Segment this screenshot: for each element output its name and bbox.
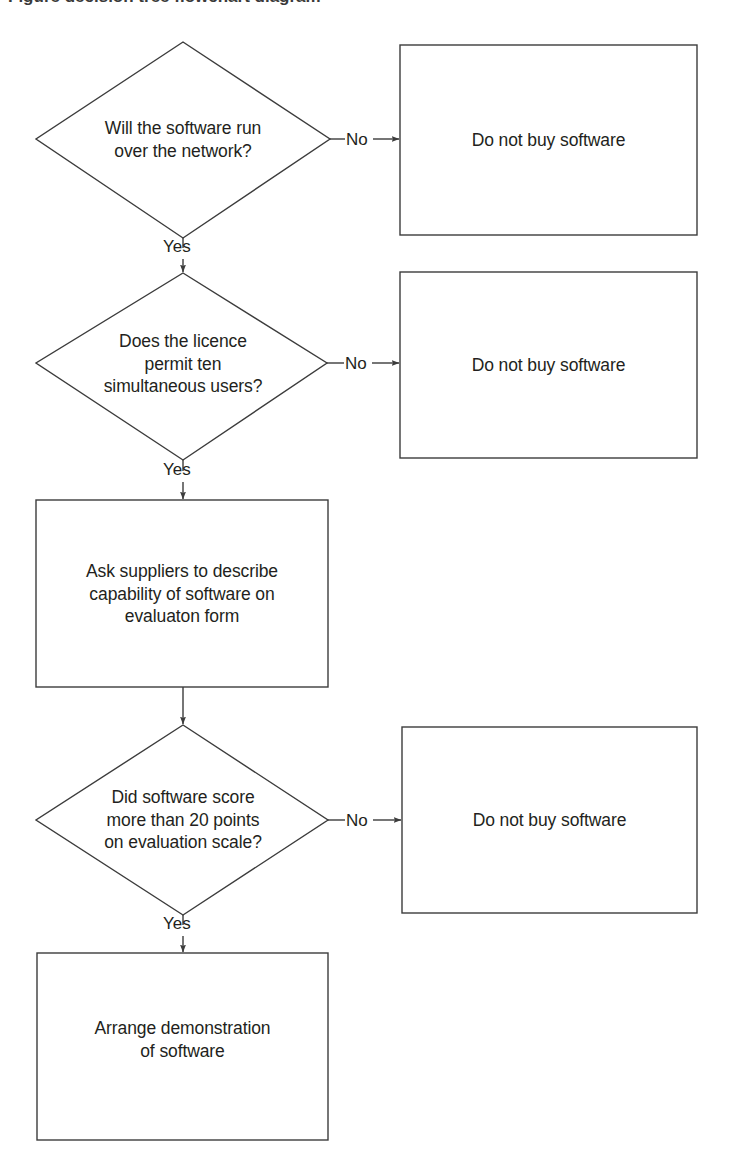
- flowchart-shapes-and-connectors: [0, 0, 734, 1171]
- edge-label-d1-no: No: [346, 131, 368, 148]
- flowchart-canvas: Figure decision tree flowchart diagram: [0, 0, 734, 1171]
- edge-label-d2-no: No: [345, 355, 367, 372]
- outcome3-rect-shape: [402, 727, 697, 913]
- process2-rect-shape: [37, 953, 328, 1140]
- process1-rect-shape: [36, 500, 328, 687]
- outcome1-rect-shape: [400, 45, 697, 235]
- outcome2-rect-shape: [400, 272, 697, 458]
- edge-label-d3-no: No: [346, 812, 368, 829]
- decision2-diamond-shape: [36, 273, 327, 460]
- edge-label-d2-yes: Yes: [163, 461, 191, 478]
- edge-label-d1-yes: Yes: [163, 238, 191, 255]
- decision3-diamond-shape: [36, 725, 328, 915]
- decision1-diamond-shape: [36, 42, 330, 238]
- edge-label-d3-yes: Yes: [163, 915, 191, 932]
